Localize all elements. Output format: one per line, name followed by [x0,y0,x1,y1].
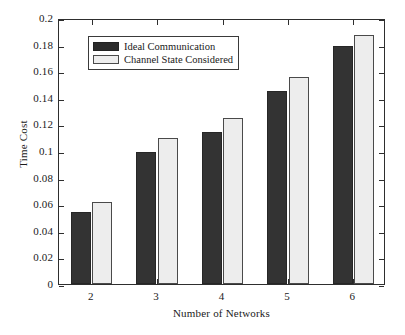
x-tick-mark-top [288,20,289,25]
legend-swatch-icon [93,42,119,51]
bar-ideal-communication-2 [71,212,91,284]
y-tick-mark-right [379,73,384,74]
y-tick-mark-right [379,286,384,287]
bar-chart-figure: Ideal CommunicationChannel State Conside… [0,0,405,335]
y-tick-mark [59,233,64,234]
x-tick-label: 2 [71,290,111,302]
legend-item: Channel State Considered [93,53,233,66]
y-tick-mark [59,126,64,127]
bar-ideal-communication-4 [202,132,222,284]
y-tick-mark-right [379,180,384,181]
x-tick-label: 4 [202,290,242,302]
y-tick-label: 0.06 [5,199,53,210]
plot-area: Ideal CommunicationChannel State Conside… [58,19,385,285]
y-tick-mark [59,153,64,154]
x-tick-mark-top [353,20,354,25]
chart-legend: Ideal CommunicationChannel State Conside… [88,36,239,70]
bar-channel-state-considered-5 [289,77,309,284]
y-tick-label: 0.02 [5,252,53,263]
x-tick-label: 6 [332,290,372,302]
y-tick-mark-right [379,100,384,101]
y-tick-mark [59,20,64,21]
y-tick-mark-right [379,206,384,207]
y-tick-label: 0 [5,279,53,290]
bar-ideal-communication-3 [136,152,156,284]
y-tick-mark [59,47,64,48]
y-tick-label: 0.2 [5,13,53,24]
bar-channel-state-considered-6 [354,35,374,284]
legend-item: Ideal Communication [93,40,233,53]
legend-label: Ideal Communication [124,41,215,52]
y-tick-label: 0.14 [5,93,53,104]
y-tick-mark [59,180,64,181]
y-tick-mark-right [379,259,384,260]
y-axis-title: Time Cost [17,89,29,199]
y-tick-mark-right [379,20,384,21]
x-tick-label: 3 [136,290,176,302]
bar-ideal-communication-5 [267,91,287,284]
y-tick-mark [59,286,64,287]
y-tick-mark-right [379,126,384,127]
bar-channel-state-considered-4 [223,118,243,284]
x-tick-label: 5 [267,290,307,302]
legend-label: Channel State Considered [124,54,233,65]
y-tick-mark [59,259,64,260]
y-tick-mark [59,100,64,101]
bar-channel-state-considered-3 [158,138,178,284]
x-tick-mark-top [223,20,224,25]
legend-swatch-icon [93,55,119,64]
y-tick-mark-right [379,233,384,234]
bar-channel-state-considered-2 [92,202,112,284]
y-tick-mark [59,73,64,74]
y-tick-mark-right [379,47,384,48]
y-tick-label: 0.12 [5,119,53,130]
y-tick-label: 0.18 [5,40,53,51]
y-tick-label: 0.08 [5,173,53,184]
bar-ideal-communication-6 [333,46,353,284]
y-tick-mark [59,206,64,207]
y-tick-label: 0.1 [5,146,53,157]
y-tick-label: 0.04 [5,226,53,237]
x-tick-mark-top [157,20,158,25]
x-tick-mark-top [92,20,93,25]
x-axis-title: Number of Networks [58,307,385,319]
y-tick-mark-right [379,153,384,154]
y-tick-label: 0.16 [5,66,53,77]
